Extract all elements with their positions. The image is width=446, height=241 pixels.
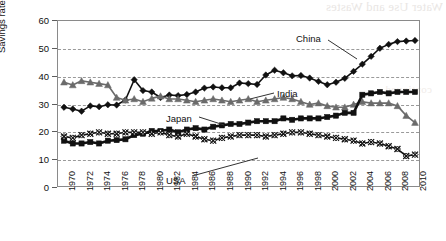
data-point bbox=[210, 84, 216, 90]
x-tick-label-1998: 1998 bbox=[313, 171, 323, 191]
x-tick-label-2000: 2000 bbox=[330, 171, 340, 191]
data-point bbox=[192, 89, 198, 95]
plot-area bbox=[57, 20, 420, 187]
data-point bbox=[298, 116, 303, 121]
data-point bbox=[385, 41, 391, 47]
y-tick-mark-10 bbox=[52, 159, 57, 160]
data-point bbox=[289, 73, 295, 79]
data-point bbox=[61, 79, 68, 85]
data-point bbox=[140, 129, 146, 135]
data-point bbox=[360, 92, 365, 97]
series-label-china: China bbox=[296, 33, 321, 44]
data-point bbox=[105, 138, 110, 143]
series-usa bbox=[61, 129, 418, 159]
data-point bbox=[333, 113, 338, 118]
data-point bbox=[298, 129, 304, 135]
data-point bbox=[342, 136, 348, 142]
data-point bbox=[395, 89, 400, 94]
data-point bbox=[193, 134, 199, 140]
x-tick-label-2010: 2010 bbox=[418, 171, 428, 191]
data-point bbox=[201, 85, 207, 91]
data-point bbox=[201, 136, 207, 142]
data-point bbox=[219, 85, 225, 91]
data-point bbox=[211, 124, 216, 129]
y-tick-label-30: 30 bbox=[27, 98, 49, 109]
data-point bbox=[113, 102, 119, 108]
data-point bbox=[245, 80, 251, 86]
data-point bbox=[403, 38, 409, 44]
data-point bbox=[114, 138, 119, 143]
data-point bbox=[307, 75, 313, 81]
data-point bbox=[280, 131, 286, 137]
data-point bbox=[167, 127, 172, 132]
data-point bbox=[105, 131, 111, 137]
data-point bbox=[412, 152, 418, 158]
data-point bbox=[342, 110, 347, 115]
data-point bbox=[412, 89, 417, 94]
data-point bbox=[316, 116, 321, 121]
y-tick-label-40: 40 bbox=[27, 70, 49, 81]
data-point bbox=[96, 104, 102, 110]
y-tick-label-20: 20 bbox=[27, 126, 49, 137]
data-point bbox=[246, 120, 251, 125]
data-point bbox=[325, 114, 330, 119]
data-point bbox=[394, 146, 400, 152]
data-point bbox=[280, 70, 286, 76]
data-point bbox=[324, 134, 330, 140]
data-point bbox=[210, 138, 216, 144]
y-tick-label-10: 10 bbox=[27, 154, 49, 165]
data-point bbox=[245, 132, 251, 138]
x-tick-label-1992: 1992 bbox=[260, 171, 270, 191]
x-tick-label-1984: 1984 bbox=[190, 171, 200, 191]
data-point bbox=[131, 129, 137, 135]
x-tick-label-1994: 1994 bbox=[278, 171, 288, 191]
series-layer bbox=[58, 21, 421, 188]
y-tick-label-0: 0 bbox=[27, 182, 49, 193]
y-tick-mark-60 bbox=[52, 20, 57, 21]
data-point bbox=[228, 85, 234, 91]
data-point bbox=[289, 129, 295, 135]
y-axis-label: Savings rate (%) bbox=[0, 0, 7, 53]
data-point bbox=[79, 141, 84, 146]
data-point bbox=[298, 72, 304, 78]
data-point bbox=[237, 132, 243, 138]
data-point bbox=[122, 129, 128, 135]
data-point bbox=[166, 132, 172, 138]
data-point bbox=[228, 134, 234, 140]
data-point bbox=[263, 134, 269, 140]
y-tick-mark-50 bbox=[52, 48, 57, 49]
data-point bbox=[368, 139, 374, 145]
data-point bbox=[333, 135, 339, 141]
y-tick-mark-20 bbox=[52, 131, 57, 132]
chart-container: Water Use and Wastes continued Savings r… bbox=[0, 0, 446, 241]
data-point bbox=[272, 132, 278, 138]
data-point bbox=[70, 106, 76, 112]
data-point bbox=[307, 116, 312, 121]
data-point bbox=[114, 131, 120, 137]
x-tick-label-1972: 1972 bbox=[85, 171, 95, 191]
data-point bbox=[79, 132, 85, 138]
data-point bbox=[386, 91, 391, 96]
data-point bbox=[403, 153, 409, 159]
x-tick-label-1996: 1996 bbox=[295, 171, 305, 191]
data-point bbox=[307, 131, 313, 137]
data-point bbox=[315, 132, 321, 138]
data-point bbox=[96, 129, 102, 135]
x-tick-label-2008: 2008 bbox=[400, 171, 410, 191]
data-point bbox=[175, 134, 181, 140]
data-point bbox=[88, 139, 93, 144]
x-tick-label-1970: 1970 bbox=[67, 171, 77, 191]
data-point bbox=[193, 126, 198, 131]
data-point bbox=[219, 123, 224, 128]
data-point bbox=[149, 131, 155, 137]
data-point bbox=[394, 38, 400, 44]
x-tick-label-1980: 1980 bbox=[155, 171, 165, 191]
data-point bbox=[386, 143, 392, 149]
data-point bbox=[404, 89, 409, 94]
y-tick-mark-30 bbox=[52, 104, 57, 105]
data-point bbox=[70, 135, 76, 141]
data-point bbox=[158, 129, 164, 135]
y-tick-mark-40 bbox=[52, 76, 57, 77]
data-point bbox=[263, 119, 268, 124]
data-point bbox=[105, 102, 111, 108]
